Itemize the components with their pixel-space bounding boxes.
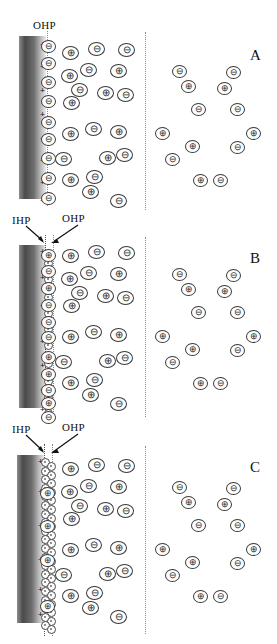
diffuse-layer-ion: ⊖: [88, 458, 105, 472]
bulk-solution-ion: ⊕: [155, 330, 170, 343]
electrode-surface-c: [17, 455, 44, 623]
diffuse-layer-ion: ⊖: [116, 564, 133, 578]
bulk-solution-ion: ⊖: [191, 103, 206, 116]
diffuse-layer-ion: ⊖: [117, 291, 134, 305]
diffuse-layer-ion: ⊕: [99, 354, 116, 368]
diffuse-layer-ion: ⊖: [88, 42, 105, 56]
bulk-solution-ion: ⊖: [165, 569, 180, 582]
bulk-solution-ion: ⊕: [246, 330, 261, 343]
compact-layer-ion: ⊕: [41, 368, 56, 381]
diffuse-layer-ion: ⊕: [62, 543, 79, 557]
diffuse-layer-ion: ⊕: [110, 125, 127, 139]
diffuse-layer-ion: ⊖: [86, 586, 103, 600]
diffuse-layer-ion: ⊖: [71, 83, 88, 97]
bulk-solution-ion: ⊖: [230, 141, 245, 154]
compact-layer-ion: ⊖: [41, 57, 56, 70]
diffuse-layer-ion: ⊕: [62, 46, 79, 60]
compact-layer-ion: ⊖: [41, 152, 56, 165]
bulk-solution-ion: ⊖: [191, 519, 206, 532]
diffuse-layer-ion: ⊕: [61, 485, 78, 499]
diffuse-layer-ion: ⊕: [62, 589, 79, 603]
diffuse-layer-ion: ⊕: [82, 388, 99, 402]
bulk-solution-ion: ⊕: [246, 127, 261, 140]
bulk-solution-ion: ⊖: [165, 153, 180, 166]
bulk-solution-ion: ⊕: [217, 82, 232, 95]
bulk-solution-ion: ⊖: [226, 269, 241, 282]
panel-c-bockris: IHP OHP C ++++++ ⊕⊕⊕⊕ ⊕⊖⊖⊕⊖⊕⊖⊕⊖⊕⊕⊖⊕⊖⊕⊖⊕⊖…: [0, 414, 277, 644]
diffuse-layer-ion: ⊖: [85, 538, 102, 552]
diffuse-layer-ion: ⊕: [62, 127, 79, 141]
compact-layer-ion: ⊖: [41, 331, 56, 344]
diffuse-layer-ion: ⊕: [62, 173, 79, 187]
bulk-solution-ion: ⊖: [213, 377, 228, 390]
bulk-solution-ion: ⊕: [217, 285, 232, 298]
bulk-solution-ion: ⊖: [230, 103, 245, 116]
diffuse-layer-ion: ⊕: [110, 541, 127, 555]
compact-layer-ion: ⊖: [41, 265, 56, 278]
compact-layer-ion: ⊖: [41, 192, 56, 205]
bulk-solution-ion: ⊕: [193, 174, 208, 187]
compact-layer-ion: ⊖: [41, 299, 56, 312]
diffuse-layer-ion: ⊖: [110, 610, 127, 624]
diffuse-layer-ion: ⊕: [97, 289, 114, 303]
diffuse-layer-ion: ⊕: [63, 512, 80, 526]
compact-layer-ion: ⊖: [41, 172, 56, 185]
bulk-solution-ion: ⊖: [191, 306, 206, 319]
diffuse-layer-ion: ⊖: [86, 373, 103, 387]
diffuse-layer-ion: ⊖: [88, 245, 105, 259]
bulk-solution-ion: ⊖: [226, 482, 241, 495]
diffuse-layer-ion: ⊕: [110, 64, 127, 78]
diffuse-bulk-boundary-a: [145, 32, 146, 210]
diffuse-layer-ion: ⊖: [71, 286, 88, 300]
compact-layer-ion: ⊕: [40, 554, 55, 567]
diffuse-layer-ion: ⊕: [61, 69, 78, 83]
diffuse-layer-ion: ⊕: [97, 86, 114, 100]
compact-layer-ion: ⊖: [41, 133, 56, 146]
diffuse-layer-ion: ⊕: [63, 96, 80, 110]
diffuse-layer-ion: ⊖: [118, 459, 135, 473]
bulk-solution-ion: ⊕: [155, 127, 170, 140]
bulk-solution-ion: ⊖: [172, 65, 187, 78]
bulk-solution-ion: ⊖: [226, 66, 241, 79]
diffuse-layer-ion: ⊕: [61, 272, 78, 286]
bulk-solution-ion: ⊕: [185, 343, 200, 356]
compact-layer-ion: ⊕: [41, 282, 56, 295]
diffuse-layer-ion: ⊕: [62, 330, 79, 344]
ohp-arrow-b: [0, 209, 140, 249]
diffuse-layer-ion: ⊖: [55, 355, 72, 369]
bulk-solution-ion: ⊖: [230, 557, 245, 570]
bulk-solution-ion: ⊖: [213, 590, 228, 603]
diffuse-layer-ion: ⊕: [62, 462, 79, 476]
solvent-molecule-icon: [47, 625, 56, 634]
diffuse-layer-ion: ⊕: [63, 299, 80, 313]
diffuse-layer-ion: ⊖: [110, 397, 127, 411]
diffuse-layer-ion: ⊖: [85, 122, 102, 136]
compact-layer-ion: ⊕: [41, 249, 56, 262]
bulk-solution-ion: ⊖: [165, 356, 180, 369]
diffuse-layer-ion: ⊕: [82, 601, 99, 615]
bulk-solution-ion: ⊖: [172, 268, 187, 281]
bulk-solution-ion: ⊖: [230, 344, 245, 357]
panel-letter-c: C: [250, 459, 260, 476]
diffuse-layer-ion: ⊖: [55, 152, 72, 166]
compact-layer-ion: ⊖: [41, 40, 56, 53]
diffuse-layer-ion: ⊖: [116, 148, 133, 162]
diffuse-layer-ion: ⊖: [116, 351, 133, 365]
compact-layer-ion: ⊕: [41, 351, 56, 364]
diffuse-layer-ion: ⊕: [97, 502, 114, 516]
diffuse-layer-ion: ⊖: [118, 246, 135, 260]
bulk-solution-ion: ⊕: [193, 590, 208, 603]
compact-layer-ion: ⊕: [40, 487, 55, 500]
panel-letter-a: A: [250, 47, 261, 64]
compact-layer-ion: ⊖: [41, 316, 56, 329]
panel-b-stern: IHP OHP B +++++++ ⊕⊖⊕⊖⊖⊖⊕⊕⊖⊕⊖ ⊕⊖⊖⊕⊖⊕⊖⊕⊖⊕…: [0, 209, 277, 417]
diffuse-layer-ion: ⊕: [62, 376, 79, 390]
compact-layer-ion: ⊕: [41, 397, 56, 410]
panel-letter-b: B: [250, 250, 260, 267]
diffuse-layer-ion: ⊖: [80, 479, 97, 493]
bulk-solution-ion: ⊕: [181, 496, 196, 509]
bulk-solution-ion: ⊕: [185, 140, 200, 153]
diffuse-layer-ion: ⊖: [117, 504, 134, 518]
diffuse-layer-ion: ⊕: [99, 151, 116, 165]
ohp-label-a: OHP: [33, 19, 56, 31]
